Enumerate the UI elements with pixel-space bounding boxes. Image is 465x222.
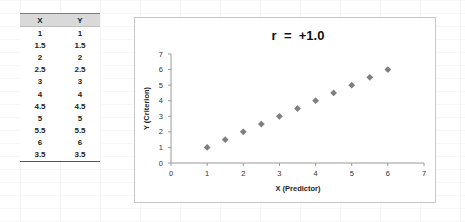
- cell-y[interactable]: 1: [60, 27, 100, 40]
- table-row: 4.54.5: [20, 100, 100, 112]
- cell-y[interactable]: 6: [60, 137, 100, 149]
- cell-x[interactable]: 2: [20, 51, 60, 63]
- table-row: 33: [20, 76, 100, 88]
- y-tick-label: 2: [159, 127, 163, 136]
- x-tick-label: 5: [350, 169, 354, 178]
- table-row: 3.53.5: [20, 149, 100, 162]
- x-tick-label: 7: [422, 169, 426, 178]
- scatter-chart[interactable]: r = +1.00123456701234567X (Predictor)Y (…: [134, 17, 436, 203]
- y-tick-label: 7: [159, 50, 163, 59]
- y-tick-label: 4: [159, 96, 163, 105]
- x-axis-title: X (Predictor): [275, 184, 321, 193]
- cell-x[interactable]: 1: [20, 27, 60, 40]
- cell-y[interactable]: 2.5: [60, 64, 100, 76]
- data-point-diamond: [366, 74, 373, 81]
- cell-x[interactable]: 5.5: [20, 125, 60, 137]
- column-header-y[interactable]: Y: [60, 14, 100, 27]
- table-row: 11: [20, 27, 100, 40]
- table-row: 44: [20, 88, 100, 100]
- x-tick-label: 2: [241, 169, 245, 178]
- table-row: 55: [20, 112, 100, 124]
- data-point-diamond: [294, 105, 301, 112]
- cell-x[interactable]: 4: [20, 88, 60, 100]
- table-header-row: X Y: [20, 14, 100, 27]
- data-point-diamond: [258, 121, 265, 128]
- cell-y[interactable]: 1.5: [60, 39, 100, 51]
- y-tick-label: 3: [159, 112, 163, 121]
- data-point-diamond: [330, 90, 337, 97]
- table-row: 66: [20, 137, 100, 149]
- cell-y[interactable]: 5: [60, 112, 100, 124]
- x-tick-label: 3: [277, 169, 281, 178]
- data-point-diamond: [204, 144, 211, 151]
- cell-y[interactable]: 4: [60, 88, 100, 100]
- data-table: X Y 111.51.5222.52.533444.54.5555.55.566…: [20, 13, 100, 162]
- y-tick-label: 1: [159, 143, 163, 152]
- cell-x[interactable]: 6: [20, 137, 60, 149]
- data-point-diamond: [276, 113, 283, 120]
- table-row: 22: [20, 51, 100, 63]
- y-tick-label: 6: [159, 65, 163, 74]
- cell-x[interactable]: 3: [20, 76, 60, 88]
- column-header-x[interactable]: X: [20, 14, 60, 27]
- x-tick-label: 1: [205, 169, 209, 178]
- y-tick-label: 5: [159, 81, 163, 90]
- data-point-diamond: [348, 82, 355, 89]
- data-point-diamond: [312, 97, 319, 104]
- x-tick-label: 0: [169, 169, 173, 178]
- table-row: 1.51.5: [20, 39, 100, 51]
- cell-x[interactable]: 3.5: [20, 149, 60, 162]
- table-row: 2.52.5: [20, 64, 100, 76]
- data-point-diamond: [222, 136, 229, 143]
- cell-y[interactable]: 2: [60, 51, 100, 63]
- x-tick-label: 4: [313, 169, 317, 178]
- x-tick-label: 6: [386, 169, 390, 178]
- y-tick-label: 0: [159, 159, 163, 168]
- table-row: 5.55.5: [20, 125, 100, 137]
- y-axis-title: Y (Criterion): [142, 86, 151, 130]
- data-point-diamond: [240, 128, 247, 135]
- cell-y[interactable]: 3.5: [60, 149, 100, 162]
- cell-x[interactable]: 2.5: [20, 64, 60, 76]
- data-point-diamond: [384, 66, 391, 73]
- chart-plot-area: r = +1.00123456701234567X (Predictor)Y (…: [135, 18, 435, 202]
- cell-y[interactable]: 5.5: [60, 125, 100, 137]
- cell-y[interactable]: 4.5: [60, 100, 100, 112]
- cell-x[interactable]: 4.5: [20, 100, 60, 112]
- cell-x[interactable]: 1.5: [20, 39, 60, 51]
- chart-title: r = +1.0: [272, 28, 325, 43]
- cell-x[interactable]: 5: [20, 112, 60, 124]
- cell-y[interactable]: 3: [60, 76, 100, 88]
